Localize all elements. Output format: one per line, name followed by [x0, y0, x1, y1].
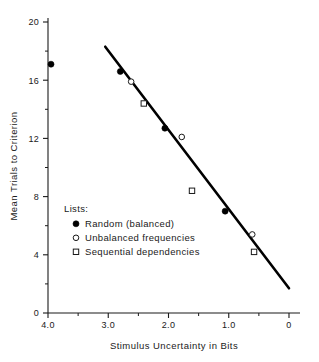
- data-point-filled-circle: [48, 61, 54, 67]
- data-point-filled-circle: [162, 125, 168, 131]
- legend-marker-open-circle: [73, 235, 79, 241]
- legend-entry: Random (balanced): [73, 218, 174, 229]
- data-point-open-square: [141, 101, 146, 106]
- data-point-open-square: [189, 188, 194, 193]
- legend-entries: Random (balanced)Unbalanced frequenciesS…: [73, 218, 200, 257]
- data-point-filled-circle: [117, 68, 123, 74]
- y-tick-label: 20: [28, 17, 39, 27]
- x-tick-label: 4.0: [41, 320, 54, 330]
- legend-entry: Unbalanced frequencies: [73, 232, 195, 243]
- y-tick-label: 16: [28, 76, 39, 86]
- legend-label: Random (balanced): [85, 218, 174, 229]
- x-axis-title: Stimulus Uncertainty in Bits: [110, 340, 238, 351]
- x-axis-tick-labels: 4.03.02.01.00: [41, 320, 291, 330]
- legend: Lists: Random (balanced)Unbalanced frequ…: [64, 203, 200, 257]
- axes-group: [48, 18, 300, 313]
- x-tick-label: 3.0: [102, 320, 115, 330]
- y-tick-label: 8: [34, 192, 39, 202]
- data-point-open-circle: [128, 79, 134, 85]
- legend-marker-open-square: [73, 249, 78, 254]
- y-axis-ticks: [43, 22, 48, 313]
- x-tick-label: 1.0: [222, 320, 235, 330]
- data-point-open-circle: [179, 134, 185, 140]
- legend-marker-filled-circle: [73, 221, 79, 227]
- y-tick-label: 12: [28, 134, 39, 144]
- legend-label: Unbalanced frequencies: [85, 232, 195, 243]
- y-tick-label: 0: [34, 308, 39, 318]
- y-axis-title: Mean Trials to Criterion: [8, 111, 19, 220]
- data-point-open-square: [251, 249, 256, 254]
- legend-label: Sequential dependencies: [85, 246, 200, 257]
- legend-title: Lists:: [64, 203, 88, 214]
- x-axis-ticks: [48, 313, 289, 318]
- x-tick-label: 2.0: [162, 320, 175, 330]
- x-tick-label: 0: [286, 320, 291, 330]
- y-axis-tick-labels: 048121620: [28, 17, 39, 318]
- legend-entry: Sequential dependencies: [73, 246, 199, 257]
- chart-figure: 048121620 4.03.02.01.00 Mean Trials to C…: [0, 0, 319, 362]
- y-tick-label: 4: [34, 250, 39, 260]
- data-point-open-circle: [249, 232, 255, 238]
- data-point-filled-circle: [222, 208, 228, 214]
- scatter-plot-canvas: 048121620 4.03.02.01.00 Mean Trials to C…: [0, 0, 319, 362]
